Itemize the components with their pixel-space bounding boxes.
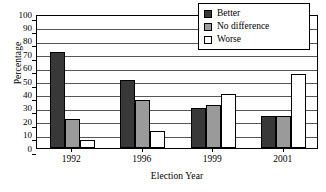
legend-swatch-icon: [204, 36, 212, 44]
y-axis-tick-labels: 0102030405060708090100: [6, 11, 32, 149]
bar: [65, 119, 80, 148]
legend-item-label: No difference: [217, 21, 269, 32]
legend-item: Worse: [204, 33, 305, 46]
y-axis-tick-label: 50: [6, 78, 32, 87]
bar: [291, 74, 306, 148]
x-axis-tick-label: 1999: [187, 154, 237, 165]
bar: [206, 105, 221, 148]
bar: [135, 100, 150, 148]
legend-item: No difference: [204, 20, 305, 33]
x-axis-tick-mark: [71, 148, 72, 152]
bar: [50, 52, 65, 148]
x-axis-tick-mark: [142, 148, 143, 152]
legend-item-label: Worse: [217, 34, 241, 45]
y-axis-tick-label: 60: [6, 64, 32, 73]
bar: [80, 140, 95, 148]
bar-chart-figure: Percentage 0102030405060708090100 199219…: [0, 0, 326, 192]
bar: [120, 80, 135, 148]
y-axis-tick-label: 90: [6, 24, 32, 33]
y-axis-tick-label: 20: [6, 118, 32, 127]
x-axis-tick-mark: [283, 148, 284, 152]
x-axis-tick-label: 2001: [258, 154, 308, 165]
bar: [221, 94, 236, 148]
y-axis-tick-label: 40: [6, 91, 32, 100]
legend-item-label: Better: [217, 8, 240, 19]
y-axis-tick-label: 10: [6, 131, 32, 140]
legend-item: Better: [204, 7, 305, 20]
x-axis-tick-mark: [212, 148, 213, 152]
x-axis-tick-label: 1992: [46, 154, 96, 165]
y-axis-tick-label: 100: [6, 11, 32, 20]
y-axis-tick-label: 70: [6, 51, 32, 60]
bar: [261, 116, 276, 148]
chart-legend: BetterNo differenceWorse: [198, 3, 310, 50]
y-axis-tick-label: 0: [6, 145, 32, 154]
y-axis-tick-label: 80: [6, 37, 32, 46]
legend-swatch-icon: [204, 10, 212, 18]
legend-swatch-icon: [204, 23, 212, 31]
y-axis-tick-label: 30: [6, 104, 32, 113]
x-axis-tick-label: 1996: [117, 154, 167, 165]
x-axis-title: Election Year: [36, 171, 318, 182]
x-axis-tick-labels: 1992199619992001: [36, 148, 318, 168]
bar: [191, 108, 206, 148]
bar: [150, 131, 165, 148]
bar: [276, 116, 291, 148]
